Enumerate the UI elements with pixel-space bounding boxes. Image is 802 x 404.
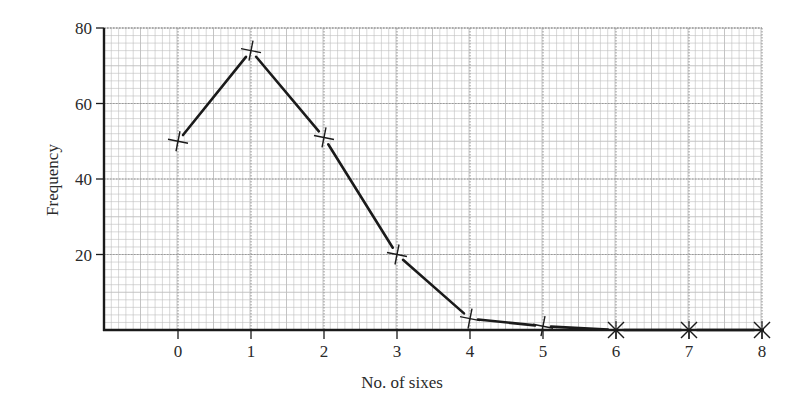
y-tick-label: 80 <box>75 19 92 38</box>
frequency-line-chart: 20406080 012345678 No. of sixes Frequenc… <box>0 0 802 404</box>
x-axis-title: No. of sixes <box>361 373 443 392</box>
x-tick-label: 1 <box>247 342 256 361</box>
x-tick-label: 6 <box>612 342 621 361</box>
y-tick-label: 40 <box>75 170 92 189</box>
x-tick-label: 8 <box>758 342 767 361</box>
x-tick-label: 5 <box>539 342 548 361</box>
x-tick-label: 4 <box>466 342 475 361</box>
y-tick-label: 60 <box>75 95 92 114</box>
series-line-segment <box>328 144 393 247</box>
y-axis-ticks: 20406080 <box>75 19 104 265</box>
x-tick-label: 7 <box>685 342 694 361</box>
x-axis-ticks: 012345678 <box>174 330 767 361</box>
x-tick-label: 0 <box>174 342 183 361</box>
x-tick-label: 2 <box>320 342 329 361</box>
x-tick-label: 3 <box>393 342 402 361</box>
y-tick-label: 20 <box>75 246 92 265</box>
y-axis-title: Frequency <box>43 144 62 216</box>
series-line-segment <box>403 260 464 314</box>
series-line-segment <box>256 57 319 132</box>
